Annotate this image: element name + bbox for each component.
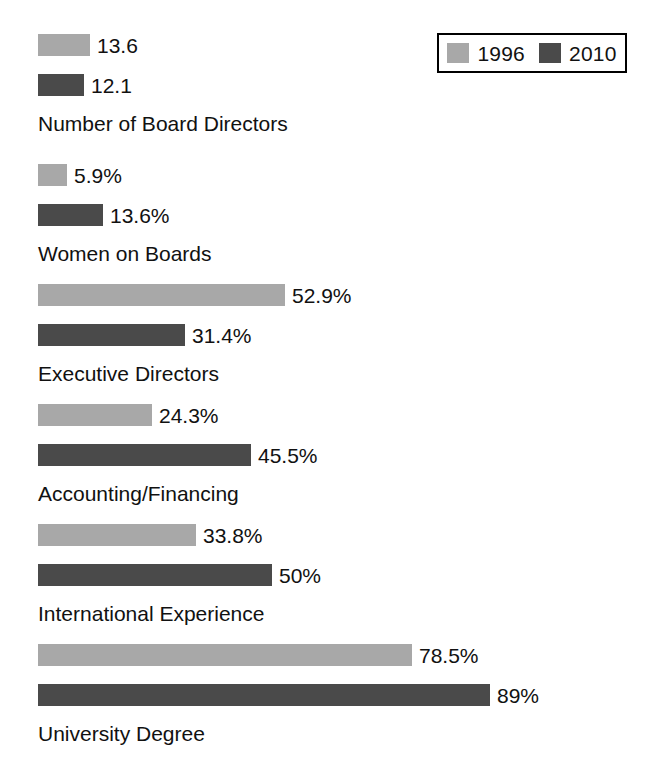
- bar-1996: [38, 524, 196, 546]
- bar-group: 78.5%89%University Degree: [0, 644, 648, 749]
- bar-2010: [38, 444, 251, 466]
- category-label: Women on Boards: [38, 243, 212, 265]
- bar-value-label: 31.4%: [192, 325, 252, 346]
- bar-2010: [38, 684, 490, 706]
- bar-row: 12.1: [38, 74, 132, 96]
- bar-group: 5.9%13.6%Women on Boards: [0, 164, 648, 269]
- bar-1996: [38, 284, 285, 306]
- bar-row: 52.9%: [38, 284, 352, 306]
- bar-1996: [38, 404, 152, 426]
- bar-row: 31.4%: [38, 324, 252, 346]
- category-label: International Experience: [38, 603, 264, 625]
- bar-value-label: 45.5%: [258, 445, 318, 466]
- bar-row: 78.5%: [38, 644, 479, 666]
- bar-1996: [38, 34, 90, 56]
- category-label: Accounting/Financing: [38, 483, 239, 505]
- bar-group: 13.612.1Number of Board Directors: [0, 34, 648, 139]
- bar-value-label: 50%: [279, 565, 321, 586]
- bar-1996: [38, 164, 67, 186]
- bar-row: 50%: [38, 564, 321, 586]
- bar-row: 45.5%: [38, 444, 318, 466]
- bar-group: 24.3%45.5%Accounting/Financing: [0, 404, 648, 509]
- bar-row: 24.3%: [38, 404, 219, 426]
- category-label: University Degree: [38, 723, 205, 745]
- bar-row: 89%: [38, 684, 539, 706]
- bar-value-label: 12.1: [91, 75, 132, 96]
- bar-row: 33.8%: [38, 524, 263, 546]
- category-label: Executive Directors: [38, 363, 219, 385]
- bar-value-label: 89%: [497, 685, 539, 706]
- bar-value-label: 5.9%: [74, 165, 122, 186]
- bar-row: 13.6%: [38, 204, 170, 226]
- bar-row: 13.6: [38, 34, 138, 56]
- bar-value-label: 13.6%: [110, 205, 170, 226]
- bar-2010: [38, 204, 103, 226]
- bar-value-label: 52.9%: [292, 285, 352, 306]
- bar-2010: [38, 74, 84, 96]
- bar-value-label: 24.3%: [159, 405, 219, 426]
- bar-2010: [38, 564, 272, 586]
- bar-value-label: 13.6: [97, 35, 138, 56]
- bar-2010: [38, 324, 185, 346]
- category-label: Number of Board Directors: [38, 113, 288, 135]
- bar-group: 52.9%31.4%Executive Directors: [0, 284, 648, 389]
- bar-value-label: 78.5%: [419, 645, 479, 666]
- bar-1996: [38, 644, 412, 666]
- bar-row: 5.9%: [38, 164, 122, 186]
- bar-group: 33.8%50%International Experience: [0, 524, 648, 629]
- bar-chart: 1996 2010 13.612.1Number of Board Direct…: [0, 0, 648, 778]
- bar-value-label: 33.8%: [203, 525, 263, 546]
